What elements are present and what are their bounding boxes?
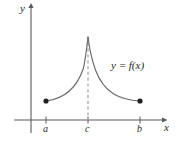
y-axis-arrow: [28, 3, 33, 8]
tick-label-c: c: [85, 124, 89, 134]
curve-function-label: y = f(x): [111, 60, 144, 71]
x-axis-label: x: [164, 122, 169, 133]
right-endpoint-dot: [137, 98, 142, 103]
y-axis-label: y: [20, 3, 25, 14]
function-graph-svg: [0, 0, 178, 143]
tick-label-b: b: [137, 124, 142, 134]
tick-label-a: a: [43, 124, 48, 134]
curve-left-branch: [46, 37, 88, 101]
figure-container: y x a c b y = f(x): [0, 0, 178, 143]
left-endpoint-dot: [43, 98, 48, 103]
